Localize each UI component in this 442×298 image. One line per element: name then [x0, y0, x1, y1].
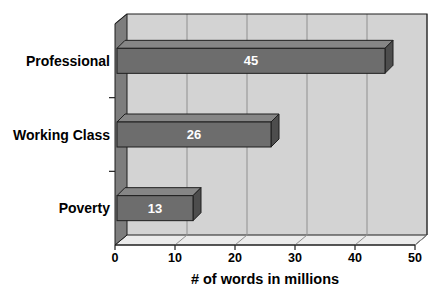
- x-tick-label: 0: [112, 251, 119, 265]
- x-tick-label: 40: [348, 251, 362, 265]
- bar-chart-3d: 0102030405045Professional26Working Class…: [0, 0, 442, 298]
- bar-value-label: 26: [187, 127, 201, 142]
- x-tick-label: 10: [168, 251, 182, 265]
- bar-top-face: [117, 114, 279, 122]
- bar-group: 45: [117, 40, 393, 73]
- x-tick-label: 20: [228, 251, 242, 265]
- category-label: Working Class: [13, 127, 110, 143]
- chart-screenshot: 0102030405045Professional26Working Class…: [0, 0, 442, 298]
- bar-value-label: 13: [148, 201, 162, 216]
- x-axis-title: # of words in millions: [191, 271, 339, 287]
- category-label: Professional: [26, 53, 110, 69]
- bar-value-label: 45: [244, 53, 258, 68]
- bar-top-face: [117, 40, 393, 48]
- bar-group: 26: [117, 114, 279, 147]
- category-label: Poverty: [59, 200, 111, 216]
- bar-group: 13: [117, 188, 201, 221]
- x-tick-label: 30: [288, 251, 302, 265]
- x-tick-label: 50: [408, 251, 422, 265]
- plot-floor: [115, 235, 427, 245]
- bar-top-face: [117, 188, 201, 196]
